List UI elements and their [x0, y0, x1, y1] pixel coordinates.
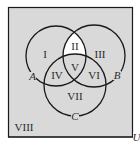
- universe-label: U: [133, 131, 140, 143]
- region-label-vi: VI: [88, 69, 100, 81]
- region-label-iv: IV: [51, 69, 63, 81]
- region-label-iii: III: [95, 48, 106, 60]
- region-label-ii: II: [71, 40, 79, 52]
- region-label-i: I: [43, 48, 47, 60]
- region-label-v: V: [71, 61, 79, 73]
- set-label-b: B: [114, 69, 121, 81]
- set-label-a: A: [28, 70, 36, 82]
- venn-diagram: I II III IV V VI VII VIII A B C U: [0, 0, 140, 151]
- region-label-vii: VII: [67, 90, 83, 102]
- set-label-c: C: [71, 110, 79, 122]
- region-label-viii: VIII: [15, 121, 34, 133]
